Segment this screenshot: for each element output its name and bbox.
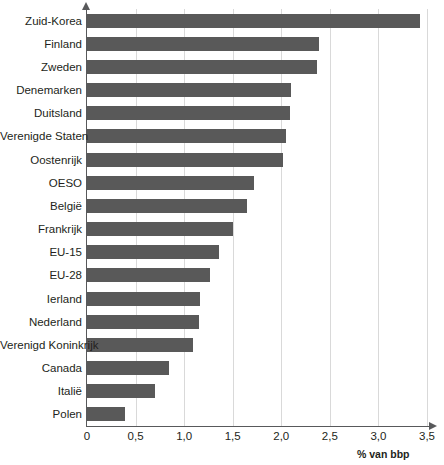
y-axis-label: Ierland: [0, 293, 82, 305]
gridline: [427, 9, 428, 426]
y-axis-label: Zweden: [0, 61, 82, 73]
bar-row: [87, 129, 286, 143]
y-axis-label: Zuid-Korea: [0, 15, 82, 27]
y-axis-label: Canada: [0, 362, 82, 374]
bar-row: [87, 106, 290, 120]
y-axis-label: Verenigd Koninkrijk: [0, 339, 82, 351]
bar: [87, 384, 155, 398]
bar-row: [87, 268, 210, 282]
y-axis-label: Italië: [0, 385, 82, 397]
y-axis-label: EU-28: [0, 269, 82, 281]
bar-chart: Zuid-KoreaFinlandZwedenDenemarkenDuitsla…: [0, 0, 444, 465]
x-axis-tick-label: 1,5: [225, 430, 241, 442]
bar-row: [87, 153, 283, 167]
bar: [87, 407, 125, 421]
plot-area: [87, 9, 427, 426]
bar: [87, 106, 290, 120]
x-axis-tick-label: 1,0: [176, 430, 192, 442]
y-axis-label: EU-15: [0, 246, 82, 258]
y-axis-label: Duitsland: [0, 107, 82, 119]
bar-row: [87, 222, 233, 236]
bar-row: [87, 338, 193, 352]
bar-row: [87, 245, 219, 259]
x-axis-title: % van bbp: [357, 448, 410, 460]
y-axis-label: Frankrijk: [0, 223, 82, 235]
y-axis-category-labels: Zuid-KoreaFinlandZwedenDenemarkenDuitsla…: [0, 9, 82, 426]
x-axis-tick-label: 3,5: [419, 430, 435, 442]
bar-row: [87, 199, 247, 213]
gridline: [378, 9, 379, 426]
x-axis-tick-label: 3,0: [370, 430, 386, 442]
bar-row: [87, 83, 291, 97]
y-axis-label: Oostenrijk: [0, 154, 82, 166]
gridline: [330, 9, 331, 426]
bar: [87, 153, 283, 167]
bar-row: [87, 60, 317, 74]
bar-row: [87, 292, 200, 306]
bar-row: [87, 176, 254, 190]
x-axis-tick-labels: 00,51,01,52,02,53,03,5: [87, 430, 427, 450]
x-axis-tick-label: 0: [84, 430, 90, 442]
x-axis-tick-label: 2,0: [273, 430, 289, 442]
bar: [87, 14, 420, 28]
bar: [87, 37, 319, 51]
y-axis-label: Nederland: [0, 316, 82, 328]
bar: [87, 268, 210, 282]
bar-row: [87, 315, 199, 329]
y-axis-label: Finland: [0, 38, 82, 50]
y-axis-label: België: [0, 200, 82, 212]
bar: [87, 60, 317, 74]
y-axis-label: Verenigde Staten: [0, 130, 82, 142]
y-axis-arrow-icon: [82, 2, 90, 10]
x-axis-tick-label: 0,5: [128, 430, 144, 442]
x-axis-arrow-icon: [429, 422, 437, 430]
x-axis-tick-label: 2,5: [322, 430, 338, 442]
bar: [87, 199, 247, 213]
bar-row: [87, 407, 125, 421]
x-axis-line: [86, 426, 430, 427]
y-axis-line: [86, 9, 87, 426]
bar: [87, 176, 254, 190]
y-axis-label: OESO: [0, 177, 82, 189]
bar-row: [87, 361, 169, 375]
bar: [87, 222, 233, 236]
bar: [87, 315, 199, 329]
y-axis-label: Denemarken: [0, 84, 82, 96]
bar: [87, 338, 193, 352]
bar: [87, 245, 219, 259]
bar-row: [87, 14, 420, 28]
bar: [87, 292, 200, 306]
y-axis-label: Polen: [0, 408, 82, 420]
bar: [87, 361, 169, 375]
bar: [87, 83, 291, 97]
bar: [87, 129, 286, 143]
bar-row: [87, 384, 155, 398]
bar-row: [87, 37, 319, 51]
